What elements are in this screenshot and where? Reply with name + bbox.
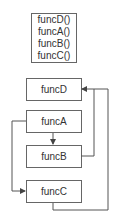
edges-layer (0, 0, 116, 224)
edge-funcB-funcD (81, 89, 94, 156)
edge-funcC-funcD (53, 89, 108, 210)
edge-funcA-funcC (12, 121, 26, 191)
